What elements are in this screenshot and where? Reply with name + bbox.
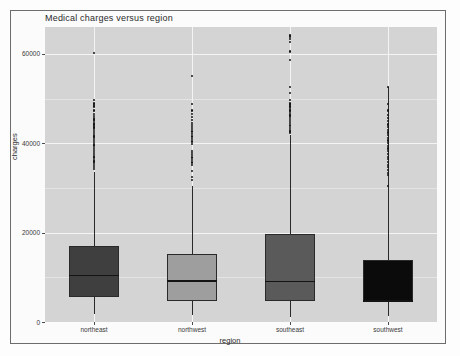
- outlier-point: [191, 75, 193, 77]
- outlier-point: [191, 116, 193, 118]
- box-northwest[interactable]: [167, 254, 218, 300]
- outlier-point: [93, 105, 95, 107]
- gridline-minor-y: [45, 99, 437, 100]
- box-southeast[interactable]: [265, 234, 316, 301]
- box-median-line: [167, 280, 218, 282]
- gridline-major-y: [45, 143, 437, 144]
- y-tick-mark: [42, 233, 45, 234]
- figure-root: Medical charges versus region charges re…: [0, 0, 460, 356]
- x-tick-mark: [388, 322, 389, 325]
- x-tick-mark: [290, 322, 291, 325]
- plot-panel: [45, 27, 437, 322]
- box-median-line: [265, 281, 316, 283]
- y-tick-label: 0: [6, 319, 40, 326]
- y-tick-label: 40000: [6, 140, 40, 147]
- y-tick-label: 20000: [6, 229, 40, 236]
- outlier-point: [93, 168, 95, 170]
- x-tick-label-southeast: southeast: [276, 326, 304, 333]
- page-title: Medical charges versus region: [45, 13, 173, 23]
- outlier-point: [191, 164, 193, 166]
- outlier-point: [93, 109, 95, 111]
- y-tick-mark: [42, 322, 45, 323]
- box-northeast[interactable]: [69, 246, 120, 297]
- outlier-point: [387, 86, 389, 88]
- x-tick-mark: [192, 322, 193, 325]
- x-tick-mark: [94, 322, 95, 325]
- y-tick-mark: [42, 143, 45, 144]
- box-median-line: [363, 300, 414, 302]
- x-tick-label-northwest: northwest: [178, 326, 206, 333]
- outlier-point: [387, 109, 389, 111]
- x-tick-label-northeast: northeast: [80, 326, 107, 333]
- outlier-point: [289, 86, 291, 88]
- x-tick-label-southwest: southwest: [373, 326, 402, 333]
- outlier-point: [289, 38, 291, 40]
- box-southwest[interactable]: [363, 260, 414, 300]
- y-tick-label: 60000: [6, 50, 40, 57]
- x-axis-title: region: [0, 336, 460, 345]
- outlier-point: [191, 143, 193, 145]
- gridline-minor-y: [45, 188, 437, 189]
- outlier-point: [289, 50, 291, 52]
- box-median-line: [69, 275, 120, 277]
- gridline-major-y: [45, 54, 437, 55]
- gridline-major-y: [45, 233, 437, 234]
- outlier-point: [191, 109, 193, 111]
- outlier-point: [191, 176, 193, 178]
- y-tick-mark: [42, 54, 45, 55]
